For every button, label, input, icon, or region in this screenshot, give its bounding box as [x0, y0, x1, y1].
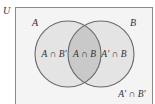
region-b-only-label: A′ ∩ B [100, 49, 126, 59]
region-outside-label: A′ ∩ B′ [117, 89, 146, 99]
region-intersection-label: A ∩ B [72, 49, 96, 59]
venn-diagram: U A B A ∩ B′ A ∩ B A′ ∩ B A′ ∩ B′ [0, 0, 155, 104]
region-a-only-label: A ∩ B′ [40, 49, 67, 59]
set-b-label: B [130, 17, 136, 28]
set-a-label: A [31, 17, 39, 28]
universe-label: U [3, 5, 11, 16]
